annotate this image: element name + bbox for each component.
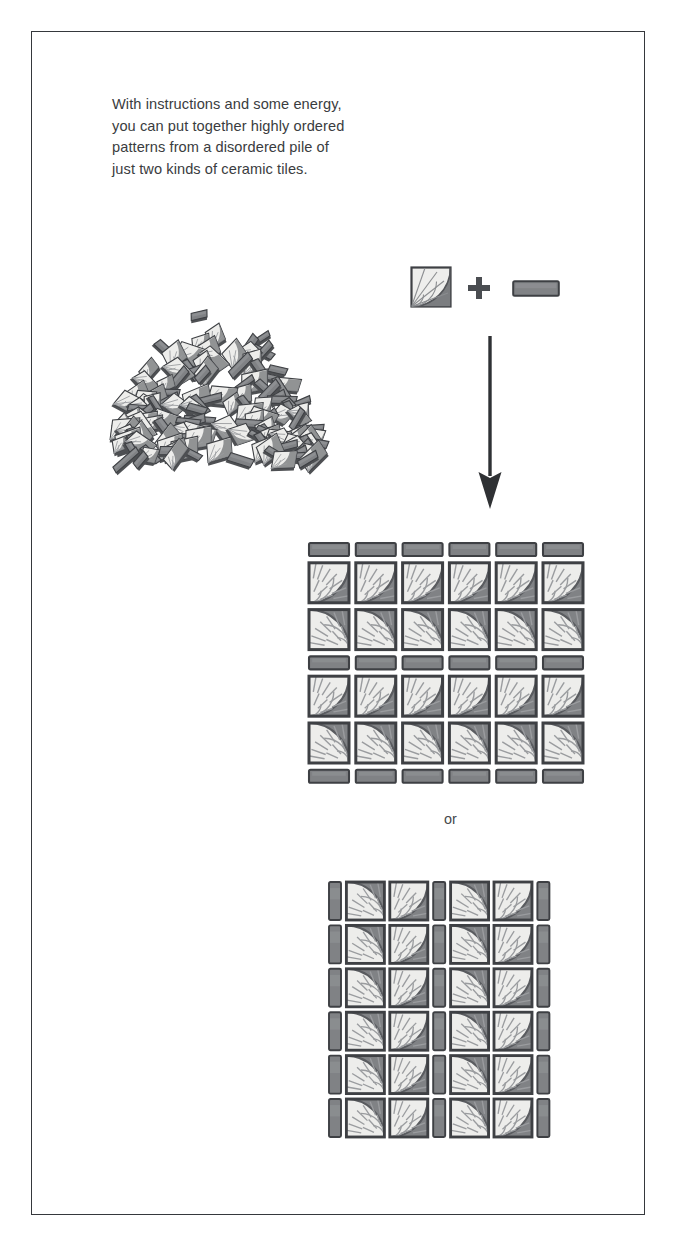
caption-text: With instructions and some energy, you c… [112,94,442,180]
square-fan-tile-icon [410,266,452,308]
disordered-tile-pile [88,286,334,462]
illustration-page: With instructions and some energy, you c… [0,0,682,1260]
downward-arrow [470,336,510,510]
ordered-pattern-grid-b [329,882,549,1137]
or-label: or [444,811,457,827]
plus-icon [468,277,490,299]
tile-legend [410,266,570,320]
rectangular-tile-icon [512,280,560,297]
ordered-pattern-grid-a [309,543,590,790]
